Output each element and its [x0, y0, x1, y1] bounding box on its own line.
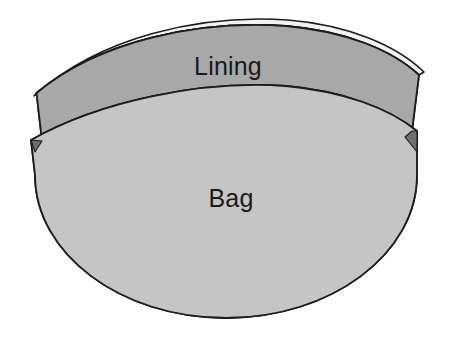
bag-lining-diagram: Lining Bag — [0, 0, 452, 354]
bag-label: Bag — [208, 184, 253, 212]
lining-label: Lining — [194, 52, 262, 80]
diagram-canvas: Lining Bag — [0, 0, 452, 354]
